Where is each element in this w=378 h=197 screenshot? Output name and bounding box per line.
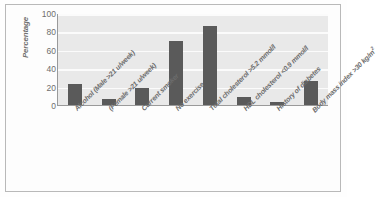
bar-chart: Percentage 100 80 60 40 20 0 Alcohol (Ma… — [6, 5, 342, 193]
y-tick-100: 100 — [42, 10, 56, 19]
y-tick-20: 20 — [47, 83, 56, 92]
bar[interactable] — [203, 26, 217, 106]
y-axis-line — [57, 14, 58, 106]
x-axis-line — [58, 105, 328, 106]
label-superscript: 2 — [369, 45, 375, 51]
y-tick-80: 80 — [47, 28, 56, 37]
x-axis-labels: Alcohol (Male >21 u/week)(Female >21 u/w… — [58, 107, 328, 191]
y-tick-40: 40 — [47, 65, 56, 74]
y-axis-ticks: 100 80 60 40 20 0 — [28, 14, 56, 106]
chart-frame: Percentage 100 80 60 40 20 0 Alcohol (Ma… — [5, 4, 341, 192]
y-tick-60: 60 — [47, 47, 56, 56]
y-tick-0: 0 — [51, 102, 56, 111]
